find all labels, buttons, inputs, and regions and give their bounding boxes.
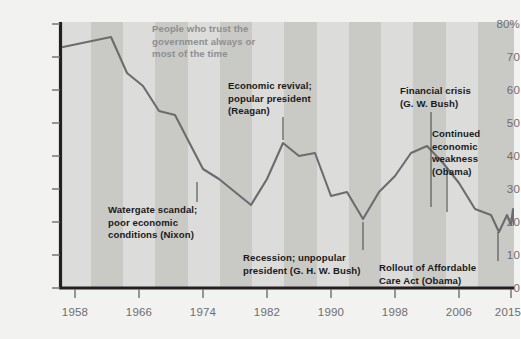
ytick-label-10: 10 bbox=[474, 249, 520, 261]
annotation-aca-rollout: Rollout of Affordable Care Act (Obama) bbox=[379, 262, 514, 287]
xtick-label-1958: 1958 bbox=[62, 306, 88, 318]
annotation-continued-economic-weakness: Continued economic weakness (Obama) bbox=[432, 128, 514, 179]
annotation-watergate-scandal: Watergate scandal; poor economic conditi… bbox=[108, 204, 238, 242]
ytick-label-30: 30 bbox=[474, 183, 520, 195]
xtick-label-2015: 2015 bbox=[495, 306, 521, 318]
annotation-trust-series-label: People who trust the government always o… bbox=[152, 23, 317, 61]
ytick-label-70: 70 bbox=[474, 51, 520, 63]
xtick-label-1990: 1990 bbox=[318, 306, 344, 318]
xtick-label-1998: 1998 bbox=[382, 306, 408, 318]
ytick-label-80: 80% bbox=[474, 18, 520, 30]
annotation-recession-ghw-bush: Recession; unpopular president (G. H. W.… bbox=[243, 252, 393, 277]
x-tick-marks bbox=[75, 289, 511, 298]
xtick-label-1966: 1966 bbox=[126, 306, 152, 318]
annotation-financial-crisis: Financial crisis (G. W. Bush) bbox=[400, 85, 510, 110]
xtick-label-1982: 1982 bbox=[254, 306, 280, 318]
ytick-label-20: 20 bbox=[474, 216, 520, 228]
y-tick-marks bbox=[52, 24, 60, 288]
annotation-economic-revival: Economic revival; popular president (Rea… bbox=[228, 80, 348, 118]
xtick-label-1974: 1974 bbox=[190, 306, 216, 318]
xtick-label-2006: 2006 bbox=[446, 306, 472, 318]
